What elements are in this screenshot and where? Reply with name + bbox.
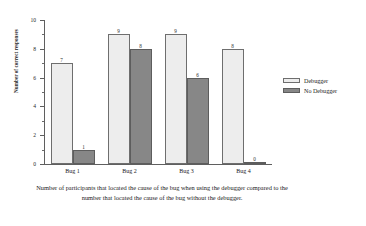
bar-value-label: 7 xyxy=(60,57,63,63)
y-tick-major: 6 xyxy=(40,78,44,79)
bar-value-label: 9 xyxy=(174,28,177,34)
y-tick-label: 4 xyxy=(33,103,36,109)
bar: 9 xyxy=(165,34,187,164)
y-tick-major: 0 xyxy=(40,164,44,165)
y-tick-major: 10 xyxy=(40,20,44,21)
y-tick-label: 2 xyxy=(33,132,36,138)
figure: Number of correct responses 0246810 7198… xyxy=(0,0,366,226)
y-tick-label: 6 xyxy=(33,75,36,81)
y-axis-title: Number of correct responses xyxy=(13,1,19,121)
dark-swatch xyxy=(283,88,300,93)
light-swatch xyxy=(283,78,300,83)
plot-area: 0246810 71989680 Bug 1Bug 2Bug 3Bug 4 xyxy=(44,20,272,164)
y-tick-minor xyxy=(42,150,45,151)
legend-label: Debugger xyxy=(304,78,328,84)
bar-value-label: 8 xyxy=(231,43,234,49)
bar: 8 xyxy=(130,49,152,164)
y-tick-minor xyxy=(42,92,45,93)
bar: 0 xyxy=(244,162,266,164)
x-tick-label: Bug 1 xyxy=(65,168,80,174)
bar-value-label: 9 xyxy=(117,28,120,34)
y-tick-minor xyxy=(42,34,45,35)
y-tick-major: 2 xyxy=(40,135,44,136)
y-tick-major: 4 xyxy=(40,106,44,107)
bar: 8 xyxy=(222,49,244,164)
bar: 9 xyxy=(108,34,130,164)
bar-value-label: 0 xyxy=(253,156,256,162)
legend-item: No Debugger xyxy=(283,86,365,95)
bar: 6 xyxy=(187,78,209,164)
x-tick-label: Bug 2 xyxy=(122,168,137,174)
bar-value-label: 6 xyxy=(196,72,199,78)
bar-value-label: 1 xyxy=(82,144,85,150)
legend-item: Debugger xyxy=(283,76,365,85)
x-tick-label: Bug 3 xyxy=(179,168,194,174)
y-tick-major: 8 xyxy=(40,49,44,50)
chart-legend: DebuggerNo Debugger xyxy=(283,76,365,96)
y-axis-line xyxy=(44,20,45,164)
bar: 7 xyxy=(51,63,73,164)
y-tick-label: 8 xyxy=(33,46,36,52)
figure-caption: Number of participants that located the … xyxy=(33,183,291,203)
y-tick-minor xyxy=(42,121,45,122)
x-tick-label: Bug 4 xyxy=(236,168,251,174)
legend-label: No Debugger xyxy=(304,88,337,94)
y-tick-label: 10 xyxy=(30,17,36,23)
y-tick-minor xyxy=(42,63,45,64)
bar: 1 xyxy=(73,150,95,164)
bar-value-label: 8 xyxy=(139,43,142,49)
x-axis-line xyxy=(44,164,272,165)
y-tick-label: 0 xyxy=(33,161,36,167)
